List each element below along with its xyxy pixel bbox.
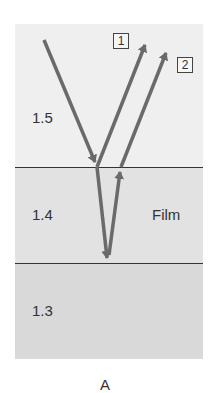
reflected-ray-2: [121, 53, 166, 167]
ray-label-box-1: 1: [113, 33, 129, 49]
incident-ray: [44, 40, 95, 162]
reflected-ray-up-in-film: [109, 172, 120, 255]
figure-caption: A: [0, 376, 210, 393]
reflected-ray-1: [97, 45, 145, 167]
ray-label-box-2: 2: [177, 57, 193, 73]
refracted-ray-down: [97, 167, 107, 258]
